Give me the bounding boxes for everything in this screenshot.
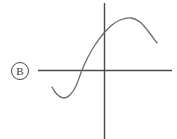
coordinate-plane-graph [0,0,177,139]
graph-figure: B [0,0,177,139]
